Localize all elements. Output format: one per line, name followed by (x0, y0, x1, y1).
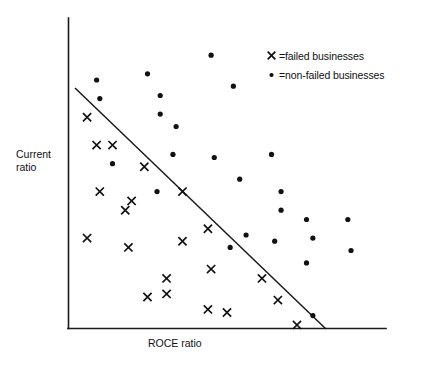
legend-item-failed: =failed businesses (266, 46, 418, 65)
data-point-failed (108, 141, 116, 149)
data-point-failed (258, 274, 266, 282)
data-point-non-failed (231, 84, 236, 89)
data-point-non-failed (94, 77, 99, 82)
data-point-non-failed (212, 155, 217, 160)
data-point-non-failed (345, 217, 350, 222)
data-point-non-failed (278, 189, 283, 194)
x-axis-label: ROCE ratio (148, 337, 202, 350)
data-point-failed (124, 243, 132, 251)
data-point-failed (274, 296, 282, 304)
data-point-failed (143, 293, 151, 301)
data-point-failed (162, 290, 170, 298)
discriminant-line-group (75, 88, 326, 329)
data-point-non-failed (158, 112, 163, 117)
data-point-non-failed (154, 189, 159, 194)
data-point-failed (83, 113, 91, 121)
data-point-failed (204, 225, 212, 233)
data-point-non-failed (348, 248, 353, 253)
data-point-non-failed (269, 152, 274, 157)
data-point-failed (121, 206, 129, 214)
data-point-failed (93, 141, 101, 149)
data-markers-layer (83, 53, 354, 329)
legend-item-non-failed: =non-failed businesses (266, 65, 418, 84)
data-point-failed (128, 197, 136, 205)
data-point-non-failed (310, 313, 315, 318)
legend-label-non-failed: =non-failed businesses (279, 69, 385, 81)
data-point-non-failed (170, 152, 175, 157)
data-point-failed (223, 308, 231, 316)
legend: =failed businesses =non-failed businesse… (266, 46, 418, 84)
data-point-non-failed (304, 260, 309, 265)
data-point-failed (204, 305, 212, 313)
data-point-non-failed (209, 53, 214, 58)
data-point-failed (178, 237, 186, 245)
data-point-non-failed (310, 236, 315, 241)
y-axis-label: Current ratio (16, 148, 51, 173)
discriminant-line (75, 88, 326, 329)
data-point-non-failed (145, 71, 150, 76)
data-point-non-failed (278, 208, 283, 213)
data-point-non-failed (243, 232, 248, 237)
data-point-non-failed (110, 161, 115, 166)
data-point-failed (96, 188, 104, 196)
data-point-failed (140, 163, 148, 171)
data-point-failed (83, 234, 91, 242)
data-point-non-failed (237, 177, 242, 182)
data-point-non-failed (304, 217, 309, 222)
data-point-non-failed (97, 96, 102, 101)
dot-marker-icon (266, 69, 279, 80)
cross-marker-icon (266, 50, 279, 61)
data-point-non-failed (272, 239, 277, 244)
scatter-plot-figure: Current ratio ROCE ratio =failed busines… (0, 0, 426, 366)
data-point-failed (162, 274, 170, 282)
data-point-failed (178, 188, 186, 196)
data-point-non-failed (158, 93, 163, 98)
data-point-non-failed (174, 124, 179, 129)
legend-label-failed: =failed businesses (279, 50, 364, 62)
data-point-failed (207, 265, 215, 273)
data-point-non-failed (228, 245, 233, 250)
